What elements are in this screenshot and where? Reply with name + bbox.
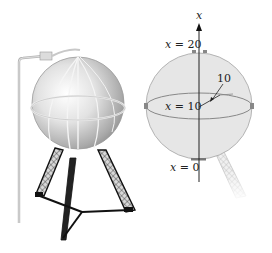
right-marker	[250, 103, 254, 109]
left-marker	[144, 103, 148, 109]
axis-arrow-icon	[196, 23, 202, 31]
axis-label: x	[196, 9, 203, 22]
label-x-0: x = 0	[170, 161, 199, 174]
label-x-20: x = 20	[165, 38, 201, 51]
sphere-diagram: x x = 20 10 x = 10 x = 0	[144, 9, 254, 202]
tower-legs	[35, 148, 135, 240]
label-x-10: x = 10	[165, 100, 201, 113]
top-marker-right	[203, 50, 207, 53]
water-tank-illustration	[19, 50, 135, 240]
tank-sphere	[31, 50, 125, 149]
label-radius: 10	[217, 72, 231, 85]
water-tank-figure: x x = 20 10 x = 10 x = 0	[0, 0, 272, 253]
